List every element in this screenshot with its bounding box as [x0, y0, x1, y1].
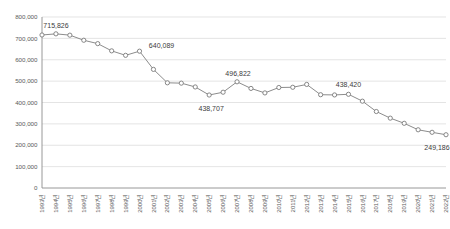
x-axis-tick-label: 2008년 — [247, 194, 254, 213]
x-axis-tick-label: 1998년 — [108, 194, 115, 213]
x-axis-tick-labels: 1993년1994년1995년1996년1997년1998년1999년2000년… — [38, 194, 449, 213]
chart-canvas: 0100,000200,000300,000400,000500,000600,… — [0, 0, 450, 229]
x-axis-tick-label: 2021년 — [428, 194, 435, 213]
x-axis-tick-label: 2003년 — [177, 194, 184, 213]
x-axis-tick-label: 2000년 — [136, 194, 143, 213]
x-axis-tick-label: 1999년 — [122, 194, 129, 213]
data-point-marker — [430, 130, 434, 134]
x-axis-tick-label: 1994년 — [52, 194, 59, 213]
x-axis-tick-label: 2007년 — [233, 194, 240, 213]
data-point-marker — [388, 116, 392, 120]
data-point-marker — [221, 90, 225, 94]
line-chart: 0100,000200,000300,000400,000500,000600,… — [0, 0, 450, 229]
data-point-marker — [193, 85, 197, 89]
data-point-marker — [68, 33, 72, 37]
data-point-label: 438,420 — [336, 81, 361, 88]
data-point-marker — [235, 80, 239, 84]
data-point-marker — [40, 33, 44, 37]
y-axis-tick-label: 200,000 — [15, 141, 38, 148]
x-axis-tick-label: 1996년 — [80, 194, 87, 213]
y-axis-tick-label: 100,000 — [15, 163, 38, 170]
x-axis-tick-label: 1995년 — [66, 194, 73, 213]
data-point-marker — [151, 67, 155, 71]
x-axis-tick-label: 2001년 — [150, 194, 157, 213]
data-point-marker — [82, 38, 86, 42]
data-point-label: 715,826 — [43, 22, 68, 29]
x-axis-tick-label: 2002년 — [163, 194, 170, 213]
x-axis-tick-label: 2006년 — [219, 194, 226, 213]
data-point-marker — [165, 81, 169, 85]
data-point-label: 496,822 — [225, 70, 250, 77]
data-point-label: 438,707 — [199, 105, 224, 112]
y-axis-tick-label: 300,000 — [15, 120, 38, 127]
y-axis-tick-label: 500,000 — [15, 77, 38, 84]
y-axis-tick-label: 800,000 — [15, 13, 38, 20]
x-axis-tick-label: 2013년 — [317, 194, 324, 213]
data-point-marker — [305, 82, 309, 86]
y-axis-tick-label: 400,000 — [15, 99, 38, 106]
y-axis-tick-labels: 0100,000200,000300,000400,000500,000600,… — [15, 13, 38, 191]
x-axis-tick-label: 2015년 — [345, 194, 352, 213]
x-axis-tick-label: 1993년 — [38, 194, 45, 213]
data-point-marker — [402, 121, 406, 125]
x-axis-tick-label: 2016년 — [359, 194, 366, 213]
x-axis-tick-label: 2017년 — [372, 194, 379, 213]
data-point-marker — [110, 49, 114, 53]
x-axis-tick-label: 2019년 — [400, 194, 407, 213]
y-axis-tick-label: 0 — [34, 184, 38, 191]
x-axis-tick-label: 1997년 — [94, 194, 101, 213]
x-axis-tick-label: 2014년 — [331, 194, 338, 213]
x-axis-tick-label: 2012년 — [303, 194, 310, 213]
data-point-marker — [54, 32, 58, 36]
x-axis-tick-label: 2010년 — [275, 194, 282, 213]
data-series — [42, 34, 446, 135]
y-axis-tick-label: 600,000 — [15, 56, 38, 63]
x-axis-tick-label: 2009년 — [261, 194, 268, 213]
x-axis-tick-label: 2022년 — [442, 194, 449, 213]
data-point-marker — [179, 81, 183, 85]
data-point-label: 640,089 — [149, 42, 174, 49]
data-point-marker — [444, 133, 448, 137]
x-axis-tick-label: 2004년 — [191, 194, 198, 213]
data-point-marker — [277, 85, 281, 89]
x-axis-tick-label: 2018년 — [386, 194, 393, 213]
data-point-marker — [96, 42, 100, 46]
data-point-marker — [332, 93, 336, 97]
data-point-markers — [40, 32, 448, 137]
data-point-marker — [346, 92, 350, 96]
x-axis-tick-label: 2020년 — [414, 194, 421, 213]
data-point-marker — [123, 53, 127, 57]
x-axis-tick-label: 2011년 — [289, 194, 296, 213]
y-axis-tick-label: 700,000 — [15, 35, 38, 42]
data-point-marker — [291, 85, 295, 89]
gridlines — [42, 17, 446, 167]
x-axis-tick-label: 2005년 — [205, 194, 212, 213]
data-point-label: 249,186 — [424, 144, 449, 151]
data-point-marker — [137, 49, 141, 53]
data-point-marker — [207, 93, 211, 97]
data-point-marker — [249, 86, 253, 90]
data-point-marker — [319, 93, 323, 97]
data-point-marker — [374, 109, 378, 113]
data-point-marker — [360, 99, 364, 103]
series-line — [42, 34, 446, 135]
data-point-marker — [263, 91, 267, 95]
data-point-marker — [416, 128, 420, 132]
